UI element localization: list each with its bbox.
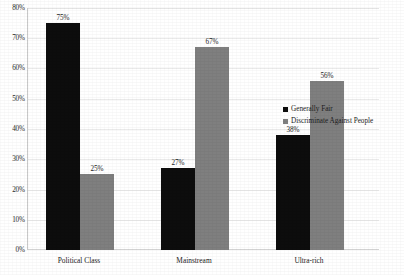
bar-generally-fair[interactable]: 75% — [46, 23, 80, 250]
category-label-ultra-rich: Ultra-rich — [254, 256, 364, 265]
bar-discriminate[interactable]: 67% — [195, 47, 229, 250]
y-tick-label: 20% — [0, 186, 25, 194]
y-tick-label: 10% — [0, 216, 25, 224]
y-tick-label: 30% — [0, 155, 25, 163]
plot-area: 75% 25% 27% 67% 38% 56% — [27, 8, 378, 250]
bar-value-label: 67% — [205, 38, 218, 46]
bar-discriminate[interactable]: 25% — [80, 174, 114, 250]
bar-group: 27% 67% — [161, 8, 229, 250]
y-tick-label: 60% — [0, 64, 25, 72]
y-tick-label: 50% — [0, 95, 25, 103]
y-tick-label: 70% — [0, 34, 25, 42]
square-marker-icon — [283, 107, 288, 112]
bar-value-label: 25% — [90, 165, 103, 173]
y-tick-label: 0% — [0, 246, 25, 254]
category-label-mainstream: Mainstream — [139, 256, 249, 265]
square-marker-icon — [283, 119, 288, 124]
legend-item-generally-fair[interactable]: Generally Fair — [283, 104, 401, 114]
bar-value-label: 75% — [56, 14, 69, 22]
bar-value-label: 56% — [320, 72, 333, 80]
y-tick-label: 80% — [0, 4, 25, 12]
bar-group: 38% 56% — [276, 8, 344, 250]
bar-generally-fair[interactable]: 38% — [276, 135, 310, 250]
bar-value-label: 27% — [171, 159, 184, 167]
legend-label: Discriminate Against People — [291, 117, 373, 125]
category-label-political-class: Political Class — [24, 256, 134, 265]
bar-generally-fair[interactable]: 27% — [161, 168, 195, 250]
bar-group: 75% 25% — [46, 8, 114, 250]
bar-chart: 80% 70% 60% 50% 40% 30% 20% 10% 0% 75% — [0, 0, 404, 275]
y-tick-label: 40% — [0, 125, 25, 133]
legend: Generally Fair Discriminate Against Peop… — [283, 104, 401, 128]
legend-item-discriminate-against-people[interactable]: Discriminate Against People — [283, 116, 401, 126]
legend-label: Generally Fair — [291, 105, 333, 113]
